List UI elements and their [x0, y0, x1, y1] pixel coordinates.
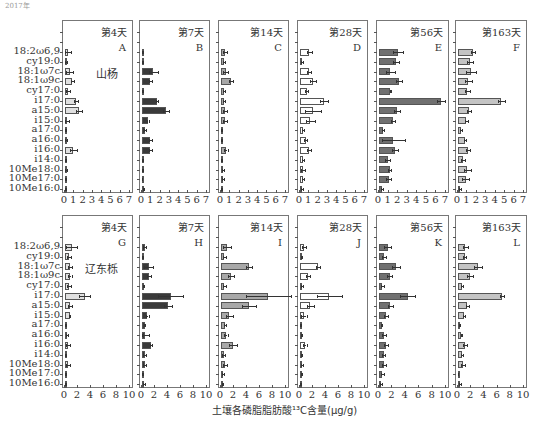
error-cap [466, 71, 467, 74]
error-cap [237, 344, 238, 347]
x-tick-label: 6 [100, 389, 106, 400]
error-cap [386, 364, 387, 367]
x-tick-mark [141, 190, 142, 193]
y-tick-mark [295, 32, 298, 33]
error-cap [458, 373, 459, 376]
y-tick-mark [216, 306, 219, 307]
x-tick-mark [220, 190, 221, 193]
error-cap [462, 178, 463, 181]
error-cap [388, 315, 389, 318]
error-cap [74, 100, 75, 103]
x-tick-mark [103, 385, 104, 388]
error-cap [222, 169, 223, 172]
error-cap [391, 178, 392, 181]
y-tick-mark [374, 296, 377, 297]
error-cap [70, 149, 71, 152]
x-tick-label: 3 [89, 194, 95, 205]
y-tick-mark [453, 121, 456, 122]
error-cap [463, 344, 464, 347]
error-cap [145, 324, 146, 327]
y-tick-mark [60, 267, 63, 268]
x-tick-label: 6 [117, 194, 123, 205]
error-cap [301, 364, 302, 367]
y-tick-mark [60, 150, 63, 151]
error-cap [66, 90, 67, 93]
error-cap [498, 100, 499, 103]
error-cap [66, 129, 67, 132]
error-cap [225, 61, 226, 64]
error-cap [74, 80, 75, 83]
error-bar [393, 52, 403, 53]
y-tick-mark [374, 52, 377, 53]
y-tick-mark [216, 365, 219, 366]
panel-title: 第28天 [329, 24, 362, 39]
error-cap [461, 383, 462, 386]
data-bar [379, 98, 441, 105]
y-tick-mark [216, 189, 219, 190]
y-tick-mark [137, 384, 140, 385]
x-tick-label: 5 [501, 194, 507, 205]
error-cap [390, 90, 391, 93]
error-cap [386, 334, 387, 337]
error-cap [222, 354, 223, 357]
y-tick-mark [60, 286, 63, 287]
error-cap [463, 285, 464, 288]
y-tick-mark [374, 335, 377, 336]
error-cap [467, 110, 468, 113]
x-tick-label: 1 [305, 194, 311, 205]
y-tick-mark [295, 62, 298, 63]
x-tick-label: 8 [113, 389, 119, 400]
error-cap [223, 256, 224, 259]
error-cap [150, 344, 151, 347]
y-tick-mark [295, 91, 298, 92]
error-cap [66, 159, 67, 162]
x-tick-mark [120, 190, 121, 193]
error-cap [72, 266, 73, 269]
error-bar [317, 296, 342, 297]
y-tick-mark [453, 227, 456, 228]
y-tick-mark [374, 276, 377, 277]
error-cap [466, 149, 467, 152]
error-cap [233, 80, 234, 83]
x-tick-mark [193, 385, 194, 388]
error-cap [384, 129, 385, 132]
x-tick-mark [364, 385, 365, 388]
y-tick-mark [60, 355, 63, 356]
error-cap [403, 51, 404, 54]
error-cap [405, 139, 406, 142]
y-tick-mark [137, 257, 140, 258]
x-tick-mark [299, 190, 300, 193]
y-tick-mark [216, 374, 219, 375]
error-cap [460, 129, 461, 132]
error-cap [473, 275, 474, 278]
error-cap [467, 61, 468, 64]
error-cap [147, 275, 148, 278]
error-cap [465, 90, 466, 93]
error-cap [391, 246, 392, 249]
error-cap [382, 324, 383, 327]
error-cap [482, 266, 483, 269]
x-tick-label: 10 [279, 389, 292, 400]
x-tick-label: 2 [230, 389, 236, 400]
error-cap [388, 169, 389, 172]
error-cap [90, 295, 91, 298]
y-tick-mark [295, 276, 298, 277]
error-cap [224, 149, 225, 152]
y-tick-mark [295, 160, 298, 161]
y-tick-mark [60, 316, 63, 317]
y-tick-mark [137, 32, 140, 33]
error-bar [400, 296, 415, 297]
error-cap [386, 178, 387, 181]
y-tick-mark [374, 160, 377, 161]
error-cap [222, 178, 223, 181]
x-tick-mark [445, 385, 446, 388]
y-tick-mark [295, 237, 298, 238]
error-cap [69, 120, 70, 123]
x-tick-mark [220, 385, 221, 388]
y-tick-mark [295, 81, 298, 82]
x-tick-label: 6 [352, 194, 358, 205]
x-tick-label: 6 [510, 194, 516, 205]
x-tick-mark [141, 385, 142, 388]
y-tick-mark [60, 42, 63, 43]
error-cap [302, 354, 303, 357]
